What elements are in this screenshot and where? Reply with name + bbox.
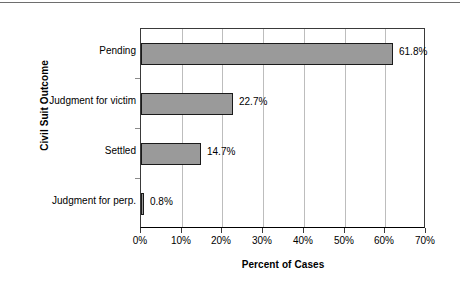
bar-row: 14.7% [141,143,426,165]
y-axis-category-label: Pending [16,45,136,56]
x-axis-title: Percent of Cases [140,259,426,270]
x-axis-tick-mark [262,228,263,233]
x-axis-tick-mark [181,228,182,233]
y-axis-tick-mark [135,78,140,79]
y-axis-category-label: Settled [16,145,136,156]
bar-judgment-for-perp[interactable] [141,193,144,215]
x-axis-tick-label: 60% [364,235,404,246]
x-axis-tick-label: 20% [201,235,241,246]
x-axis-tick-label: 50% [324,235,364,246]
x-axis-tick-mark [384,228,385,233]
plot-area: 61.8%22.7%14.7%0.8% [140,28,425,228]
bar-row: 22.7% [141,93,426,115]
x-axis-tick-label: 40% [283,235,323,246]
x-axis-tick-label: 10% [161,235,201,246]
y-axis-tick-mark [135,178,140,179]
bar-value-label: 14.7% [207,146,235,157]
bar-row: 0.8% [141,193,426,215]
y-axis-tick-mark [135,128,140,129]
bar-value-label: 0.8% [150,196,173,207]
x-axis-tick-label: 0% [120,235,160,246]
bar-settled[interactable] [141,143,201,165]
x-axis-tick-mark [344,228,345,233]
x-axis-tick-mark [140,228,141,233]
bar-pending[interactable] [141,43,393,65]
y-axis-category-label: Judgment for perp. [16,195,136,206]
x-axis-tick-label: 30% [242,235,282,246]
y-axis-category-label: Judgment for victim [16,95,136,106]
x-axis-tick-label: 70% [405,235,445,246]
bar-judgment-for-victim[interactable] [141,93,233,115]
x-axis-tick-mark [303,228,304,233]
bar-value-label: 22.7% [239,96,267,107]
bar-value-label: 61.8% [399,46,427,57]
bar-chart-figure: Civil Suit Outcome PendingJudgment for v… [0,0,460,290]
x-axis-tick-mark [221,228,222,233]
bar-row: 61.8% [141,43,426,65]
y-axis-tick-labels: PendingJudgment for victimSettledJudgmen… [14,28,136,228]
x-axis-tick-mark [425,228,426,233]
